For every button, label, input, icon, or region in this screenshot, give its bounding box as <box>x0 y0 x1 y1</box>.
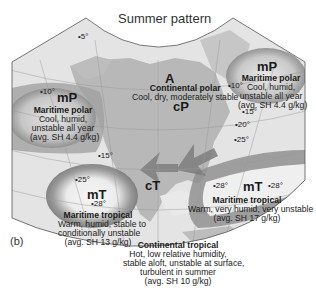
air-mass-description: (avg. SH 10 g/kg) <box>123 277 233 286</box>
air-mass-description: (avg. SH 4.4 g/kg) <box>30 133 96 142</box>
temperature-marker: •25° <box>234 136 249 144</box>
temperature-marker: •28° <box>268 182 283 190</box>
temperature-marker: •10° <box>40 88 55 96</box>
air-mass-mt-atlantic: Maritime tropical Warm, very humid, very… <box>188 196 306 223</box>
temperature-marker: •28° <box>91 200 106 208</box>
temperature-marker: •28° <box>213 182 228 190</box>
panel-label: (b) <box>10 236 23 248</box>
map-title: Summer pattern <box>118 12 211 26</box>
air-mass-code-ct: cT <box>145 179 160 193</box>
temperature-marker: •15° <box>98 152 113 160</box>
temperature-marker: •25° <box>75 176 90 184</box>
air-mass-mp-pacific: Maritime polar Cool, humid, unstable all… <box>30 106 96 142</box>
temperature-marker: •20° <box>235 121 250 129</box>
air-mass-code-mp-pacific: mP <box>57 91 77 105</box>
temperature-marker: •10° <box>228 82 243 90</box>
air-mass-map: Summer pattern (b) A Continental polar C… <box>0 0 316 288</box>
temperature-marker: •5° <box>78 33 88 41</box>
air-mass-code-mp-atlantic: mP <box>257 60 277 74</box>
air-mass-code-mt-atlantic: mT <box>243 180 263 194</box>
air-mass-mp-atlantic: Maritime polar Cool, humid, unstable all… <box>238 74 304 110</box>
air-mass-code-cp: cP <box>173 100 189 114</box>
air-mass-description: (avg. SH 17 g/kg) <box>188 214 306 223</box>
temperature-marker: •15° <box>242 108 257 116</box>
air-mass-ct: Continental tropical Hot, low relative h… <box>123 241 233 286</box>
